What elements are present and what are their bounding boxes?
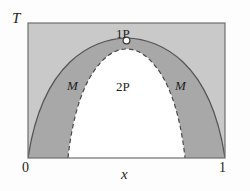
metastable-region-label-right: M — [175, 79, 186, 92]
metastable-region-label-left: M — [67, 79, 78, 92]
x-axis-label: x — [121, 167, 128, 182]
x-axis-tick-max: 1 — [219, 161, 226, 175]
phase-diagram-figure: T x 0 1 1P 2P M M — [0, 0, 250, 191]
y-axis-label: T — [12, 11, 20, 26]
one-phase-region-label: 1P — [116, 27, 130, 40]
x-axis-tick-min: 0 — [22, 161, 29, 175]
two-phase-region-label: 2P — [116, 80, 130, 93]
